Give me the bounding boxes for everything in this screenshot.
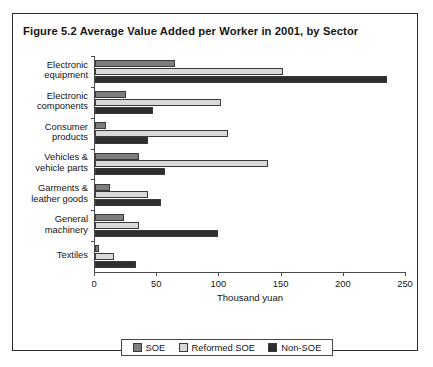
category-label: Electroniccomponents [2,91,88,112]
y-axis-tick [91,56,95,57]
bar-reformed [95,253,114,260]
x-axis-tick [405,272,406,276]
x-axis-tick [218,272,219,276]
bar-soe [95,245,99,252]
bar-nonsoe [95,199,161,206]
bar-group: Generalmachinery [95,210,406,241]
bar-reformed [95,68,283,75]
x-axis-tick [94,272,95,276]
legend-item: SOE [133,342,166,353]
y-axis-tick [91,149,95,150]
bar-group: Textiles [95,241,406,272]
bar-soe [95,60,175,67]
bar-nonsoe [95,261,136,268]
bar-nonsoe [95,168,165,175]
x-axis-tick [156,272,157,276]
x-axis-tick [281,272,282,276]
bar-group: Garments &leather goods [95,179,406,210]
chart-legend: SOEReformed SOENon-SOE [121,339,333,356]
x-axis-title: Thousand yuan [94,292,406,303]
x-axis-line [94,272,406,273]
category-label: Textiles [2,250,88,261]
figure-frame: Figure 5.2 Average Value Added per Worke… [12,13,418,351]
category-label: Consumerproducts [2,122,88,143]
y-axis-tick [91,210,95,211]
bar-soe [95,214,124,221]
legend-label: Non-SOE [281,342,321,353]
bar-group: Vehicles &vehicle parts [95,149,406,180]
bar-nonsoe [95,230,218,237]
x-axis-tick [343,272,344,276]
bar-soe [95,122,106,129]
legend-swatch-icon [133,343,142,352]
legend-item: Reformed SOE [179,342,256,353]
bar-nonsoe [95,76,387,83]
x-axis-tick-label: 250 [397,278,413,289]
x-axis-tick-label: 150 [273,278,289,289]
legend-label: Reformed SOE [192,342,256,353]
legend-swatch-icon [268,343,277,352]
y-axis-tick [91,241,95,242]
bar-soe [95,91,126,98]
x-axis-tick-label: 0 [91,278,96,289]
bar-soe [95,184,110,191]
legend-label: SOE [146,342,166,353]
bar-reformed [95,99,221,106]
bar-group: Consumerproducts [95,118,406,149]
x-axis-tick-label: 200 [335,278,351,289]
figure-title: Figure 5.2 Average Value Added per Worke… [23,25,358,37]
x-axis-tick-label: 100 [211,278,227,289]
bar-nonsoe [95,137,148,144]
category-label: Vehicles &vehicle parts [2,152,88,173]
bar-reformed [95,191,148,198]
bar-nonsoe [95,107,153,114]
y-axis-tick [91,118,95,119]
category-label: Electronicequipment [2,60,88,81]
y-axis-tick [91,87,95,88]
bar-soe [95,153,139,160]
x-axis-tick-label: 50 [151,278,161,289]
category-label: Garments &leather goods [2,183,88,204]
bar-reformed [95,130,228,137]
legend-item: Non-SOE [268,342,321,353]
bar-group: Electroniccomponents [95,87,406,118]
category-label: Generalmachinery [2,214,88,235]
legend-swatch-icon [179,343,188,352]
chart-plot-area: ElectronicequipmentElectroniccomponentsC… [94,56,406,272]
bar-reformed [95,222,139,229]
y-axis-tick [91,179,95,180]
bar-group: Electronicequipment [95,56,406,87]
bar-reformed [95,160,268,167]
